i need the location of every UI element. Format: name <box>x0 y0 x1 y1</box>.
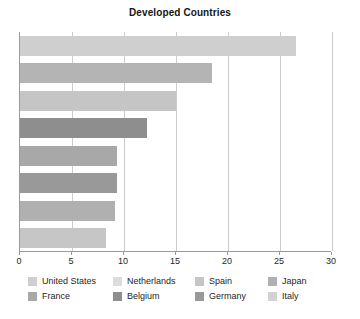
x-tick-mark <box>19 252 20 255</box>
bar-chart: Developed Countries 051015202530 United … <box>0 0 360 319</box>
legend-item-italy[interactable]: Italy <box>268 291 299 302</box>
legend-swatch-icon <box>268 292 277 301</box>
legend-item-united-states[interactable]: United States <box>28 276 96 287</box>
plot-area <box>19 32 331 252</box>
bar-fill <box>20 91 176 111</box>
legend-swatch-icon <box>28 277 37 286</box>
x-tick-mark <box>227 252 228 255</box>
legend-item-spain[interactable]: Spain <box>195 276 232 287</box>
bar-fill <box>20 201 115 221</box>
legend-item-belgium[interactable]: Belgium <box>113 291 160 302</box>
bar-belgium[interactable] <box>20 173 117 193</box>
bar-spain[interactable] <box>20 91 176 111</box>
legend-item-japan[interactable]: Japan <box>268 276 307 287</box>
x-tick-label: 15 <box>170 256 180 266</box>
x-tick-label: 10 <box>118 256 128 266</box>
legend-item-netherlands[interactable]: Netherlands <box>113 276 176 287</box>
legend-swatch-icon <box>195 292 204 301</box>
x-tick-label: 0 <box>16 256 21 266</box>
x-tick-mark <box>71 252 72 255</box>
bar-italy[interactable] <box>20 228 106 248</box>
legend-label: Spain <box>209 276 232 287</box>
legend-item-germany[interactable]: Germany <box>195 291 246 302</box>
legend-swatch-icon <box>195 277 204 286</box>
x-tick-mark <box>279 252 280 255</box>
bar-fill <box>20 118 147 138</box>
legend-label: Germany <box>209 291 246 302</box>
bar-fill <box>20 63 212 83</box>
legend-swatch-icon <box>113 277 122 286</box>
legend-label: United States <box>42 276 96 287</box>
bar-fill <box>20 228 106 248</box>
bar-france[interactable] <box>20 146 117 166</box>
legend-label: France <box>42 291 70 302</box>
legend-row: FranceBelgiumGermanyItaly <box>28 289 338 304</box>
legend-swatch-icon <box>268 277 277 286</box>
bar-netherlands[interactable] <box>20 63 212 83</box>
x-tick-mark <box>123 252 124 255</box>
bar-fill <box>20 146 117 166</box>
legend-label: Japan <box>282 276 307 287</box>
x-tick-label: 25 <box>274 256 284 266</box>
bar-fill <box>20 36 296 56</box>
x-tick-label: 30 <box>326 256 336 266</box>
legend-swatch-icon <box>113 292 122 301</box>
x-axis: 051015202530 <box>19 252 331 268</box>
x-tick-mark <box>175 252 176 255</box>
x-tick-label: 20 <box>222 256 232 266</box>
legend-label: Netherlands <box>127 276 176 287</box>
chart-title: Developed Countries <box>0 7 360 18</box>
bar-fill <box>20 173 117 193</box>
x-tick-mark <box>331 252 332 255</box>
legend-label: Belgium <box>127 291 160 302</box>
bar-series <box>20 32 331 251</box>
chart-legend: United StatesNetherlandsSpainJapanFrance… <box>28 274 338 304</box>
legend-swatch-icon <box>28 292 37 301</box>
legend-label: Italy <box>282 291 299 302</box>
legend-item-france[interactable]: France <box>28 291 70 302</box>
bar-united-states[interactable] <box>20 36 296 56</box>
bar-japan[interactable] <box>20 118 147 138</box>
gridline <box>332 32 333 251</box>
legend-row: United StatesNetherlandsSpainJapan <box>28 274 338 289</box>
bar-germany[interactable] <box>20 201 115 221</box>
x-tick-label: 5 <box>68 256 73 266</box>
